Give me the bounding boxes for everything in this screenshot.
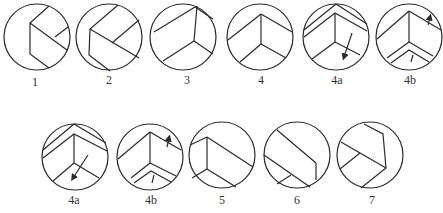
panel-4a-top-label: 4a — [331, 73, 343, 87]
panel-3-label: 3 — [184, 73, 190, 87]
panel-4b-bottom: 4b — [117, 124, 183, 207]
truncated-caption — [0, 209, 443, 213]
panel-4a-top: 4a — [303, 4, 369, 87]
panel-1: 1 — [4, 4, 70, 89]
panel-4a-bottom-label: 4a — [68, 193, 80, 207]
panel-6-label: 6 — [294, 193, 300, 207]
panel-2-label: 2 — [106, 73, 112, 87]
panel-4b-top: 4b — [376, 4, 442, 87]
diagram-canvas: 1 2 3 4 4a — [0, 0, 443, 213]
panel-7-circle — [337, 122, 403, 188]
panel-7-label: 7 — [369, 193, 375, 207]
panel-1-circle — [4, 4, 70, 70]
panel-4b-top-label: 4b — [404, 73, 416, 87]
panel-5-label: 5 — [219, 193, 225, 207]
panel-7: 7 — [337, 122, 403, 207]
panel-1-label: 1 — [32, 75, 38, 89]
panel-4-label: 4 — [258, 73, 264, 87]
panel-4-circle — [227, 4, 293, 70]
panel-2: 2 — [76, 4, 142, 87]
panel-4a-bottom: 4a — [42, 124, 108, 207]
panel-5: 5 — [189, 122, 255, 207]
panel-3: 3 — [150, 4, 216, 87]
panel-4: 4 — [227, 4, 293, 87]
panel-4b-bottom-label: 4b — [145, 193, 157, 207]
panel-2-circle — [76, 4, 142, 70]
panel-6: 6 — [264, 122, 330, 207]
